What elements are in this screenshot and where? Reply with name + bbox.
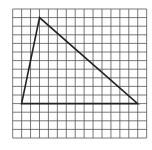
grid-triangle-diagram [0, 0, 152, 150]
square-grid [13, 9, 147, 138]
